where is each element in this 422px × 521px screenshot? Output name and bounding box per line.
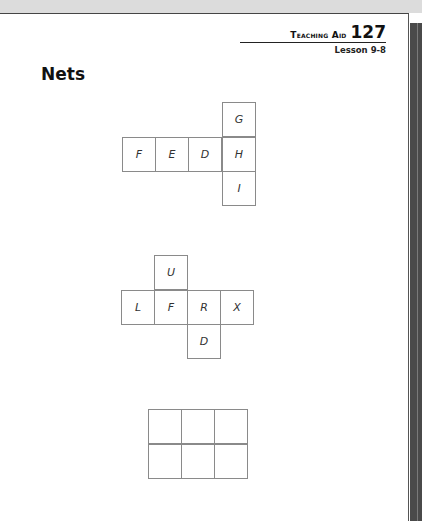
teaching-aid-label: Teaching Aid [290,30,346,40]
net-cell: X [220,290,254,325]
lesson-label: Lesson 9-8 [240,45,386,55]
net-cell: E [155,137,189,172]
teaching-aid-header: Teaching Aid 127 Lesson 9-8 [240,24,386,55]
net-cell: I [222,171,256,206]
net-cell: D [187,324,221,359]
net-cell [181,444,215,479]
net-cell: R [187,290,221,325]
net-cell: H [222,137,256,172]
net-cell [214,409,248,444]
teaching-aid-line: Teaching Aid 127 [240,24,386,43]
net-cell: D [188,137,222,172]
net-cell: L [121,290,155,325]
net-cell: G [222,102,256,137]
net-cell: F [122,137,156,172]
net-cell: U [154,255,188,290]
net-cell [148,409,182,444]
net-cell [181,409,215,444]
page-edge-shadow [410,23,422,521]
net-cell [214,444,248,479]
net-cell [148,444,182,479]
background-band [0,0,422,13]
net-cell: F [154,290,188,325]
teaching-aid-number: 127 [351,24,387,41]
page-title: Nets [41,64,85,84]
